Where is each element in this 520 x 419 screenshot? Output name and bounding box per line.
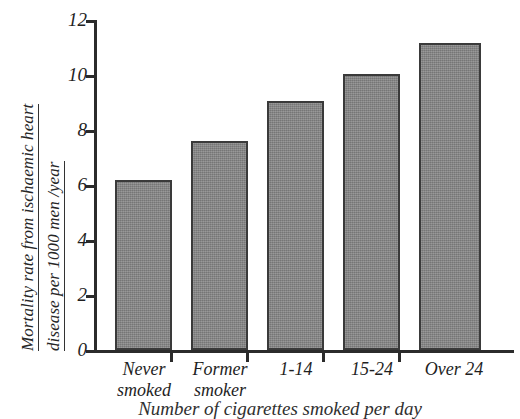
y-tick-label-4: 4 [78,230,88,249]
x-category-label-former-smoker: Former smoker [178,359,262,401]
y-tick-label-12: 12 [68,10,87,29]
y-axis-title-line-2: disease per 1000 men /year [45,161,65,351]
y-tick-label-2: 2 [78,285,88,304]
x-category-label-15-24: 15-24 [330,359,414,380]
y-tick-label-8: 8 [78,120,88,139]
bar-over-24 [419,43,481,350]
plot-area: 12 10 8 6 4 2 0 [94,18,514,352]
x-category-label-over-24: Over 24 [408,359,500,380]
y-tick-label-6: 6 [78,175,88,194]
x-category-label-never-smoked: Never smoked [102,359,186,401]
x-axis-title: Number of cigarettes smoked per day [0,398,520,419]
x-category-label-1-14: 1-14 [254,359,338,380]
bar-never-smoked [115,180,172,350]
bar-15-24 [343,74,400,350]
y-tick-label-10: 10 [68,65,87,84]
bar-former-smoker [191,141,248,350]
y-tick-label-0: 0 [78,340,88,359]
x-axis-line [88,350,514,353]
y-axis-title-line-1: Mortality rate from ischaemic heart [19,104,39,351]
bar-1-14 [267,101,324,350]
bar-chart-figure: Mortality rate from ischaemic heart dise… [0,0,520,419]
